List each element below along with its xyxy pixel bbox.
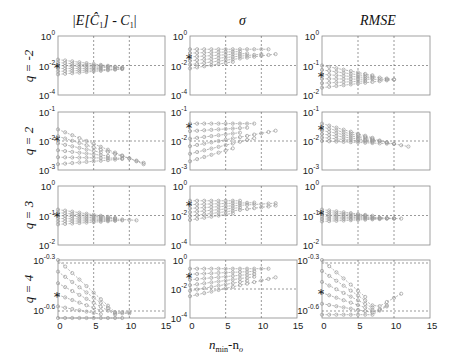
panel-r1-c1: 10010-210-4* [39, 29, 165, 101]
y-tick-label: 10-2 [303, 238, 320, 251]
y-tick-label: 10-4 [171, 311, 188, 324]
y-tick-label: 100 [173, 29, 188, 42]
row-label-q2: q = 2 [21, 126, 36, 155]
panel-r2-c1: 10-110-210-3* [39, 105, 165, 176]
star-marker: * [186, 51, 193, 66]
y-tick-label: 10-4 [171, 88, 188, 101]
y-tick-label: 100 [41, 29, 56, 42]
svg-text:15: 15 [293, 320, 304, 331]
star-marker: * [318, 69, 325, 84]
svg-text:10: 10 [391, 320, 402, 331]
svg-text:5: 5 [225, 320, 230, 331]
y-tick-label: 10-3 [171, 163, 188, 176]
svg-text:5: 5 [93, 320, 98, 331]
y-tick-label: 100 [173, 179, 188, 192]
star-marker: * [318, 207, 325, 222]
star-marker: * [54, 133, 61, 148]
x-tick-labels-col1: 0 5 10 15 [57, 320, 171, 331]
y-tick-label: 10-0.6 [297, 303, 319, 316]
svg-text:15: 15 [427, 320, 438, 331]
svg-text:0: 0 [189, 320, 194, 331]
y-tick-label: 10-2 [39, 238, 56, 251]
x-axis-label: nmin-no [209, 337, 243, 354]
y-tick-label: 10-1 [171, 105, 188, 118]
panel-r2-c2: 10-110-210-3* [171, 105, 297, 176]
y-tick-label: 10-0.3 [33, 253, 55, 266]
star-marker: * [54, 209, 61, 224]
svg-text:15: 15 [161, 320, 172, 331]
y-tick-label: 10-1 [303, 105, 320, 118]
x-tick-labels-col2: 0 5 10 15 [189, 320, 303, 331]
panel-r1-c2: 10010-210-4* [171, 29, 297, 101]
svg-text:0: 0 [321, 320, 326, 331]
y-tick-label: 10-0.6 [33, 303, 55, 316]
y-tick-label: 10-3 [39, 163, 56, 176]
svg-text:5: 5 [357, 320, 362, 331]
star-marker: * [318, 286, 325, 301]
panel-r4-c2: 10010-210-4* [171, 253, 297, 324]
y-tick-label: 10-4 [171, 238, 188, 251]
panel-r1-c3: 10010-110-2* [303, 29, 430, 101]
star-marker: * [54, 60, 61, 75]
row-label-q-neg2: q = -2 [21, 49, 36, 82]
y-tick-label: 10-4 [39, 88, 56, 101]
row-label-q4: q = 4 [21, 274, 36, 303]
star-marker: * [318, 122, 325, 137]
panel-r2-c3: 10-110-210-3* [303, 105, 430, 176]
svg-text:0: 0 [57, 320, 62, 331]
row-label-q3: q = 3 [21, 200, 36, 229]
column-title-sigma: σ [239, 13, 247, 28]
star-marker: * [186, 270, 193, 285]
svg-text:10: 10 [126, 320, 137, 331]
y-tick-label: 10-1 [39, 105, 56, 118]
svg-text:10: 10 [258, 320, 269, 331]
y-tick-label: 100 [305, 29, 320, 42]
panel-r4-c3: 10-0.310-0.6* [297, 253, 430, 318]
star-marker: * [186, 120, 193, 135]
y-tick-label: 100 [41, 179, 56, 192]
y-tick-label: 100 [305, 179, 320, 192]
panel-r3-c1: 10010-110-2* [39, 179, 165, 251]
x-tick-labels-col3: 0 5 10 15 [321, 320, 437, 331]
star-marker: * [186, 198, 193, 213]
column-title-rmse: RMSE [359, 13, 396, 28]
y-tick-label: 10-0.3 [297, 253, 319, 266]
panel-r3-c3: 10010-110-2* [303, 179, 430, 251]
y-tick-label: 100 [173, 253, 188, 266]
panel-r3-c2: 10010-210-4* [171, 179, 297, 251]
column-title-bias: |E[Ĉ1] - C1| [72, 12, 136, 30]
y-tick-label: 10-3 [303, 163, 320, 176]
panel-r4-c1: 10-0.310-0.6* [33, 253, 165, 320]
panel-grid: 10010-210-4*10010-210-4*10010-110-2*10-1… [33, 29, 430, 324]
y-tick-label: 10-2 [171, 134, 188, 147]
star-marker: * [54, 289, 61, 304]
y-tick-label: 10-2 [303, 88, 320, 101]
figure: |E[Ĉ1] - C1| σ RMSE q = -2 q = 2 q = 3 q… [0, 0, 457, 364]
